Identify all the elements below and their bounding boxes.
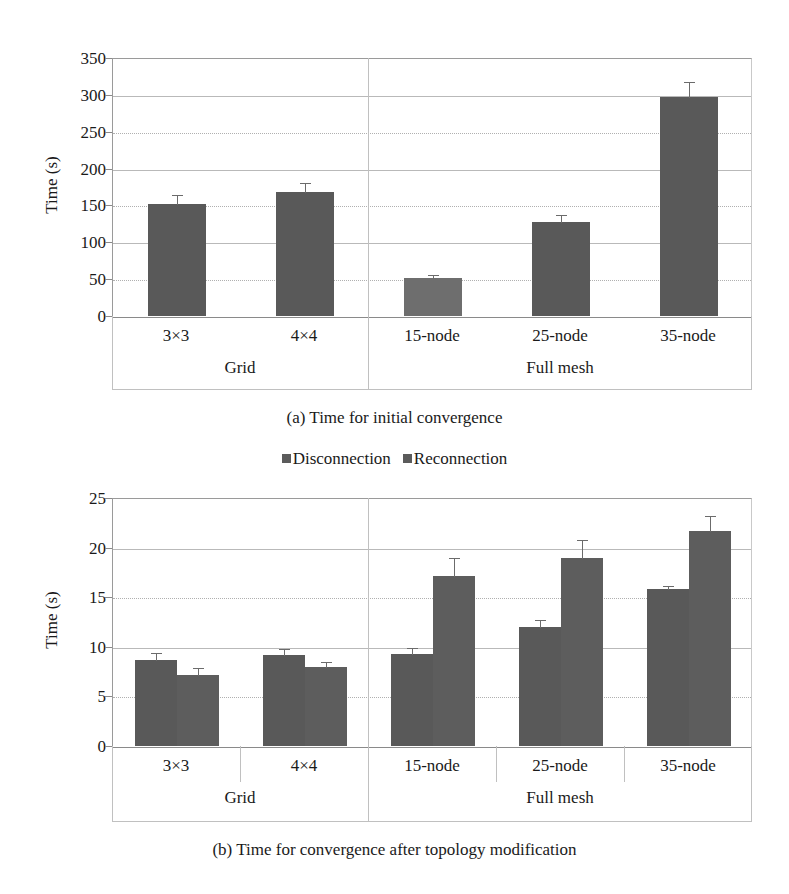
- error-bar: [540, 620, 541, 628]
- figure-b-caption: (b) Time for convergence after topology …: [0, 840, 789, 860]
- y-tick-mark: [105, 316, 112, 317]
- legend-swatch-icon: [403, 454, 412, 463]
- error-bar-cap: [449, 558, 460, 559]
- gridline: [113, 243, 751, 244]
- group-divider: [368, 58, 369, 390]
- bar: [532, 222, 591, 316]
- category-label: 4×4: [240, 326, 368, 346]
- legend-swatch-icon: [282, 454, 291, 463]
- error-bar: [582, 540, 583, 559]
- error-bar-cap: [663, 586, 674, 587]
- y-tick-mark: [105, 548, 112, 549]
- bar: [305, 667, 347, 746]
- error-bar-cap: [193, 668, 204, 669]
- bar: [263, 655, 305, 746]
- error-bar: [305, 183, 306, 193]
- bar: [647, 589, 689, 746]
- y-tick-mark: [105, 205, 112, 206]
- y-tick-label: 100: [81, 234, 107, 251]
- y-tick-label: 15: [89, 589, 106, 606]
- gridline: [113, 170, 751, 171]
- y-tick-mark: [105, 58, 112, 59]
- y-tick-mark: [105, 746, 112, 747]
- bar: [391, 654, 433, 746]
- error-bar: [198, 668, 199, 676]
- bar: [689, 531, 731, 746]
- y-tick-label: 300: [81, 86, 107, 103]
- category-divider: [240, 746, 241, 782]
- error-bar: [689, 82, 690, 98]
- error-bar: [710, 516, 711, 532]
- chart-legend: DisconnectionReconnection: [0, 448, 789, 469]
- y-tick-label: 250: [81, 123, 107, 140]
- legend-label: Reconnection: [414, 449, 507, 468]
- y-tick-label: 200: [81, 160, 107, 177]
- y-tick-label: 150: [81, 197, 107, 214]
- y-tick-label: 10: [89, 638, 106, 655]
- gridline: [113, 549, 751, 550]
- category-label: 3×3: [112, 756, 240, 776]
- y-tick-label: 20: [89, 539, 106, 556]
- group-divider: [368, 498, 369, 822]
- error-bar: [412, 648, 413, 655]
- y-tick-mark: [105, 242, 112, 243]
- group-label: Full mesh: [368, 358, 752, 378]
- category-label: 3×3: [112, 326, 240, 346]
- category-divider: [496, 746, 497, 782]
- legend-item: Reconnection: [403, 448, 507, 469]
- error-bar-cap: [684, 82, 695, 83]
- y-tick-mark: [105, 597, 112, 598]
- gridline: [113, 133, 751, 135]
- bar: [660, 97, 719, 316]
- group-label: Grid: [112, 358, 368, 378]
- bar: [135, 660, 177, 746]
- y-tick-mark: [105, 696, 112, 697]
- group-label: Grid: [112, 788, 368, 808]
- y-tick-label: 50: [89, 271, 106, 288]
- error-bar-cap: [151, 653, 162, 654]
- figure-page: Time (s) 050100150200250300350 3×34×415-…: [0, 0, 789, 894]
- error-bar: [561, 215, 562, 224]
- bar: [519, 627, 561, 746]
- category-label: 15-node: [368, 326, 496, 346]
- error-bar-cap: [705, 516, 716, 517]
- bar: [276, 192, 335, 316]
- legend-label: Disconnection: [293, 449, 391, 468]
- y-tick-label: 25: [89, 490, 106, 507]
- bar: [177, 675, 219, 746]
- chart-a-plot-area: [112, 58, 752, 316]
- legend-item: Disconnection: [282, 448, 391, 469]
- error-bar-cap: [172, 195, 183, 196]
- y-tick-mark: [105, 132, 112, 133]
- bar: [433, 576, 475, 746]
- error-bar: [454, 558, 455, 578]
- error-bar: [284, 649, 285, 656]
- error-bar-cap: [535, 620, 546, 621]
- error-bar-cap: [556, 215, 567, 216]
- error-bar-cap: [321, 662, 332, 663]
- error-bar-cap: [428, 275, 439, 276]
- y-tick-mark: [105, 279, 112, 280]
- y-tick-label: 350: [81, 50, 107, 67]
- error-bar-cap: [279, 649, 290, 650]
- category-label: 35-node: [624, 756, 752, 776]
- group-label: Full mesh: [368, 788, 752, 808]
- chart-b-y-ticks: 0510152025: [50, 498, 106, 746]
- y-tick-mark: [105, 647, 112, 648]
- bar: [561, 558, 603, 746]
- y-tick-mark: [105, 169, 112, 170]
- error-bar-cap: [407, 648, 418, 649]
- error-bar-cap: [300, 183, 311, 184]
- bar: [404, 278, 463, 316]
- category-label: 35-node: [624, 326, 752, 346]
- gridline: [113, 96, 751, 97]
- gridline: [113, 206, 751, 208]
- category-label: 25-node: [496, 326, 624, 346]
- y-tick-mark: [105, 498, 112, 499]
- category-divider: [624, 746, 625, 782]
- category-label: 15-node: [368, 756, 496, 776]
- category-label: 25-node: [496, 756, 624, 776]
- category-label: 4×4: [240, 756, 368, 776]
- bar: [148, 204, 207, 316]
- chart-b-plot-area: [112, 498, 752, 746]
